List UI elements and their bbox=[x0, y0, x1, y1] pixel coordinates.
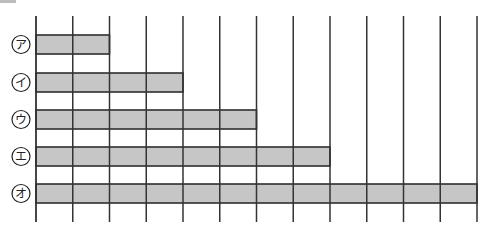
svg-text:イ: イ bbox=[15, 76, 27, 90]
horizontal-bar-chart: アイウエオ bbox=[0, 0, 492, 227]
svg-text:ウ: ウ bbox=[15, 113, 27, 127]
category-label: オ bbox=[12, 185, 30, 203]
category-label: エ bbox=[12, 148, 30, 166]
svg-text:ア: ア bbox=[15, 38, 27, 52]
category-label: ウ bbox=[12, 111, 30, 129]
category-label: ア bbox=[12, 36, 30, 54]
svg-text:エ: エ bbox=[15, 150, 27, 164]
svg-text:オ: オ bbox=[15, 187, 27, 201]
category-labels: アイウエオ bbox=[12, 36, 30, 203]
category-label: イ bbox=[12, 74, 30, 92]
